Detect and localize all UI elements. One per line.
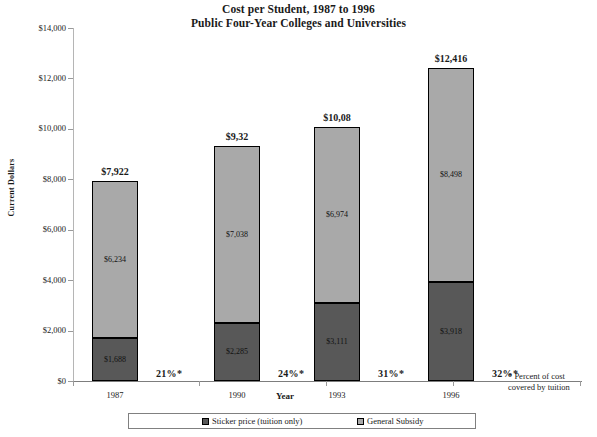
bar-value-label-general-subsidy-1993: $6,974 [314,210,360,219]
x-axis-tick-label-1993: 1993 [307,390,367,400]
legend-label-sticker-price: Sticker price (tuition only) [212,416,302,426]
bar-group-1990: $7,038$2,285$9,32 [214,0,260,437]
percent-annotation-1993: 31%* [378,368,404,379]
legend-swatch-icon-sticker-price [202,418,209,425]
bar-total-label-1987: $7,922 [78,166,152,177]
legend-item-sticker-price: Sticker price (tuition only) [202,416,302,426]
bar-value-label-sticker-price-1990: $2,285 [214,347,260,356]
footnote: * Percent of cost covered by tuition [508,371,597,393]
cost-per-student-chart: Cost per Student, 1987 to 1996 Public Fo… [0,0,597,437]
percent-annotation-1987: 21%* [156,368,182,379]
legend-label-general-subsidy: General Subsidy [367,416,423,426]
bar-value-label-sticker-price-1987: $1,688 [92,355,138,364]
bar-total-label-1990: $9,32 [200,131,274,142]
x-axis-tick-mark [73,381,74,386]
bar-total-label-1993: $10,08 [300,112,374,123]
bar-value-label-general-subsidy-1987: $6,234 [92,255,138,264]
bar-total-label-1996: $12,416 [414,53,488,64]
bar-group-1996: $8,498$3,918$12,416 [428,0,474,437]
x-axis-tick-label-1996: 1996 [421,390,481,400]
bar-value-label-general-subsidy-1996: $8,498 [428,170,474,179]
footnote-line-2: covered by tuition [508,382,597,393]
bar-value-label-sticker-price-1996: $3,918 [428,327,474,336]
bar-group-1993: $6,974$3,111$10,08 [314,0,360,437]
x-axis-tick-mark [199,381,200,386]
footnote-line-1: * Percent of cost [508,371,565,381]
x-axis-title: Year [255,391,315,401]
legend-item-general-subsidy: General Subsidy [357,416,423,426]
x-axis-tick-mark [453,381,454,386]
percent-annotation-1990: 24%* [278,368,304,379]
bar-value-label-general-subsidy-1990: $7,038 [214,230,260,239]
x-axis-tick-mark [326,381,327,386]
legend-swatch-icon-general-subsidy [357,418,364,425]
bar-value-label-sticker-price-1993: $3,111 [314,337,360,346]
bar-group-1987: $6,234$1,688$7,922 [92,0,138,437]
x-axis-tick-label-1987: 1987 [85,390,145,400]
chart-legend: Sticker price (tuition only) General Sub… [128,413,476,429]
